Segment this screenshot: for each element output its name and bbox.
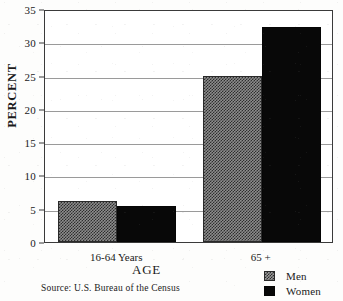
- legend-label: Women: [286, 285, 321, 297]
- y-axis: 05101520253035: [0, 0, 44, 244]
- source-note: Source: U.S. Bureau of the Census: [41, 283, 180, 293]
- solid-black-swatch-icon: [264, 286, 275, 296]
- y-tick-label: 30: [25, 38, 36, 49]
- x-category-label: 65 +: [251, 251, 271, 263]
- chart-figure: PERCENT 05101520253035 16-64 Years65 + A…: [0, 0, 343, 301]
- y-tick-label: 5: [30, 204, 36, 215]
- bar-men-65: [203, 76, 262, 242]
- legend-item-women: Women: [264, 283, 321, 298]
- bar-men-16-64-years: [58, 201, 117, 242]
- y-tick-label: 10: [25, 171, 36, 182]
- y-tick-label: 20: [25, 104, 36, 115]
- x-axis-title: AGE: [132, 262, 161, 278]
- plot-area: [44, 10, 333, 243]
- bar-women-65: [262, 27, 321, 242]
- checkerboard-swatch-icon: [264, 271, 275, 281]
- y-tick-label: 15: [25, 138, 36, 149]
- legend-label: Men: [286, 270, 307, 282]
- legend-item-men: Men: [264, 268, 321, 283]
- y-tick-label: 0: [30, 238, 36, 249]
- bar-women-16-64-years: [117, 206, 176, 242]
- y-tick-label: 35: [25, 5, 36, 16]
- y-tick-label: 25: [25, 71, 36, 82]
- legend: MenWomen: [264, 268, 321, 298]
